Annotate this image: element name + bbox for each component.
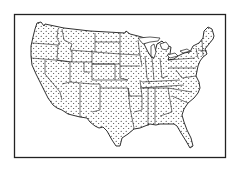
us-map-svg	[0, 0, 238, 170]
map-figure	[0, 0, 238, 170]
